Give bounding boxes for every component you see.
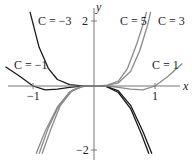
curve-label-c3: C = 3 bbox=[158, 14, 185, 28]
y-axis-label: y bbox=[95, 0, 102, 14]
x-tick-label-1: 1 bbox=[152, 89, 158, 103]
y-tick-label-2: 2 bbox=[82, 14, 88, 28]
curve-label-c-neg1: C = −1 bbox=[14, 58, 48, 72]
function-family-plot: x y −1 1 2 −2 C = −3 C = −1 C = 5 C = 3 … bbox=[0, 0, 192, 162]
curve-label-c1: C = 1 bbox=[152, 58, 179, 72]
curve-c-3 bbox=[42, 12, 151, 154]
curve-c-1 bbox=[6, 67, 149, 154]
y-tick-label-neg2: −2 bbox=[76, 143, 89, 157]
curve-c-5 bbox=[36, 12, 146, 154]
curve-label-c5: C = 5 bbox=[120, 14, 147, 28]
curve-c-1 bbox=[39, 63, 182, 153]
curve-label-c-neg3: C = −3 bbox=[38, 14, 72, 28]
curve-c-3 bbox=[30, 12, 152, 154]
x-axis-label: x bbox=[182, 79, 189, 93]
x-tick-label-neg1: −1 bbox=[27, 89, 40, 103]
